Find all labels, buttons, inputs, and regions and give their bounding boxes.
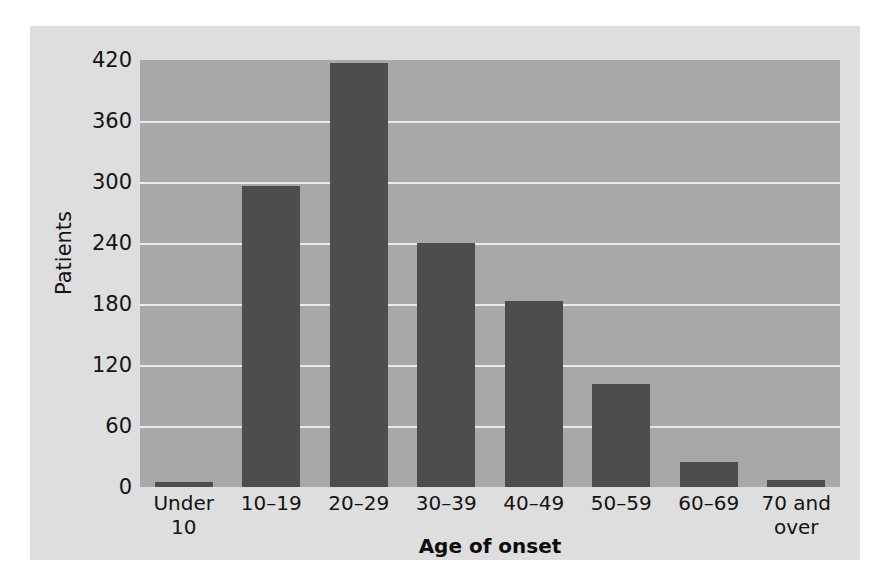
bar[interactable]	[767, 480, 825, 487]
y-tick-label: 300	[92, 170, 132, 194]
bar[interactable]	[155, 482, 213, 487]
bar[interactable]	[680, 462, 738, 487]
y-tick-label: 360	[92, 109, 132, 133]
y-tick-label: 120	[92, 353, 132, 377]
y-tick-label: 180	[92, 292, 132, 316]
y-axis-ticks: 420 360 300 240 180 120 60 0	[30, 60, 132, 487]
bar-slot	[578, 60, 666, 487]
bar-slot	[665, 60, 753, 487]
bar[interactable]	[330, 63, 388, 487]
y-axis-title: Patients	[52, 193, 76, 313]
chart-figure: 420 360 300 240 180 120 60 0 Patients Un…	[30, 26, 860, 560]
bar-slot	[228, 60, 316, 487]
bar[interactable]	[242, 186, 300, 487]
y-tick-label: 420	[92, 48, 132, 72]
y-tick-label: 240	[92, 231, 132, 255]
bar[interactable]	[505, 301, 563, 487]
bar[interactable]	[592, 384, 650, 487]
bar[interactable]	[417, 243, 475, 487]
bar-slot	[403, 60, 491, 487]
bar-slot	[315, 60, 403, 487]
bar-series	[140, 60, 840, 487]
x-axis-title: Age of onset	[140, 534, 840, 558]
y-tick-label: 0	[119, 475, 132, 499]
plot-area	[140, 60, 840, 487]
bar-slot	[753, 60, 841, 487]
bar-slot	[490, 60, 578, 487]
bar-slot	[140, 60, 228, 487]
y-tick-label: 60	[105, 414, 132, 438]
